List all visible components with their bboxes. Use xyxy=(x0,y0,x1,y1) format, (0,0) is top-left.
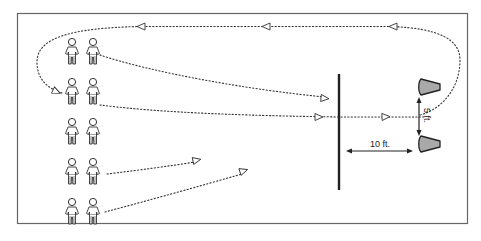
arrow-right-icon xyxy=(315,114,323,121)
player-row-4 xyxy=(66,158,100,184)
arrow-right-icon xyxy=(382,113,390,120)
horizontal-measurement: 10 ft. xyxy=(346,139,413,154)
player-icon xyxy=(87,198,100,224)
arrow-right-icon xyxy=(239,166,249,175)
player-icon xyxy=(66,198,79,224)
horizontal-measurement-label: 10 ft. xyxy=(370,139,390,149)
player-icon xyxy=(66,78,79,104)
player-icon xyxy=(87,158,100,184)
vertical-measurement: 5 ft. xyxy=(417,97,433,136)
path-row5 xyxy=(105,174,242,212)
players xyxy=(66,38,100,224)
player-row-1 xyxy=(66,38,100,64)
diagram-border xyxy=(18,14,468,224)
path-row4 xyxy=(107,162,195,174)
player-row-5 xyxy=(66,198,100,224)
movement-paths xyxy=(37,27,460,213)
arrow-left-icon xyxy=(137,23,145,30)
player-icon xyxy=(66,38,79,64)
cone-icon xyxy=(419,136,440,152)
direction-arrows xyxy=(52,23,397,175)
path-row2-to-cone xyxy=(100,105,425,117)
arrow-right-icon xyxy=(321,95,330,103)
arrow-down-right-icon xyxy=(52,87,62,97)
vertical-measurement-label: 5 ft. xyxy=(422,108,432,123)
return-loop-path xyxy=(37,27,460,116)
path-row1-to-barrier xyxy=(100,55,325,97)
player-icon xyxy=(66,118,79,144)
player-icon xyxy=(87,38,100,64)
player-icon xyxy=(66,158,79,184)
arrow-right-icon xyxy=(192,156,201,165)
player-icon xyxy=(87,118,100,144)
player-row-2 xyxy=(66,78,100,104)
arrow-left-icon xyxy=(262,23,270,30)
arrow-left-icon xyxy=(389,23,397,30)
drill-diagram: 5 ft. 10 ft. xyxy=(0,0,481,241)
player-icon xyxy=(87,78,100,104)
cone-icon xyxy=(419,79,440,95)
player-row-3 xyxy=(66,118,100,144)
